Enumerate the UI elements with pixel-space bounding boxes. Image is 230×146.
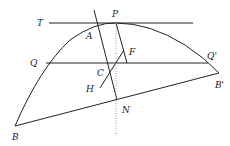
label-h: H [85,84,94,94]
line-p-f [116,23,127,63]
label-t: T [37,18,44,28]
label-n: N [121,105,131,115]
label-c: C [97,68,104,78]
label-b: B [11,132,19,142]
label-a: A [85,31,93,41]
geometry-diagram: T P A F Q Q' C H B' N B [0,0,230,146]
label-q-prime: Q' [207,51,217,61]
label-f: F [128,47,136,57]
label-p: P [111,9,119,19]
parabola-arc [15,23,219,126]
label-q: Q [30,58,38,68]
label-b-prime: B' [214,80,224,90]
